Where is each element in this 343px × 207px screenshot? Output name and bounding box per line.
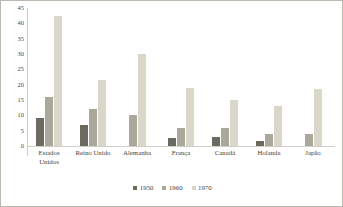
bar-1950[interactable] [168,138,176,146]
y-axis-tick-15: 15 [18,97,25,104]
bar-group [203,8,247,146]
legend-item-1950[interactable]: 1950 [133,185,153,192]
bar-1950[interactable] [212,137,220,146]
chart-legend: 195019601970 [1,185,343,192]
bar-1950[interactable] [80,125,88,146]
bar-1950[interactable] [36,118,44,146]
bar-groups [27,8,335,146]
bar-group [71,8,115,146]
y-axis-tick-25: 25 [18,66,25,73]
x-axis-label: Estados Unidos [27,149,71,175]
y-axis-tick-10: 10 [18,112,25,119]
bar-group [159,8,203,146]
bar-group [115,8,159,146]
y-axis-tick-40: 40 [18,20,25,27]
y-axis: 051015202530354045 [1,11,27,163]
bar-1970[interactable] [138,54,146,146]
legend-swatch-icon [133,186,137,190]
bar-1960[interactable] [129,115,137,146]
legend-swatch-icon [192,186,196,190]
x-axis-labels: Estados UnidosReino UnidoAlemanhaFrançaC… [27,149,335,175]
legend-label: 1950 [140,185,154,192]
bar-1950[interactable] [256,141,264,146]
bar-1960[interactable] [45,97,53,146]
bar-1970[interactable] [186,88,194,146]
chart-container: 051015202530354045 Estados UnidosReino U… [0,0,343,207]
x-axis-label: França [159,149,203,175]
x-axis-label: Canadá [203,149,247,175]
legend-label: 1960 [169,185,183,192]
legend-item-1960[interactable]: 1960 [162,185,182,192]
bar-group [27,8,71,146]
bar-1970[interactable] [230,100,238,146]
x-axis-label: Alemanha [115,149,159,175]
y-axis-tick-0: 0 [21,143,24,150]
x-axis-baseline [27,146,335,147]
bar-1960[interactable] [177,128,185,146]
x-axis-label: Holanda [247,149,291,175]
y-axis-tick-30: 30 [18,51,25,58]
legend-swatch-icon [162,186,166,190]
y-axis-tick-45: 45 [18,5,25,12]
legend-item-1970[interactable]: 1970 [192,185,212,192]
bar-group [247,8,291,146]
bar-1970[interactable] [314,89,322,146]
bar-1970[interactable] [98,80,106,146]
y-axis-tick-20: 20 [18,81,25,88]
bar-1960[interactable] [305,134,313,146]
legend-label: 1970 [198,185,212,192]
bar-1970[interactable] [274,106,282,146]
bar-1960[interactable] [265,134,273,146]
bar-1960[interactable] [89,109,97,146]
bar-1970[interactable] [54,16,62,146]
y-axis-tick-35: 35 [18,35,25,42]
x-axis-label: Japão [291,149,335,175]
x-axis-label: Reino Unido [71,149,115,175]
y-axis-tick-5: 5 [21,127,24,134]
bar-group [291,8,335,146]
bar-1960[interactable] [221,128,229,146]
